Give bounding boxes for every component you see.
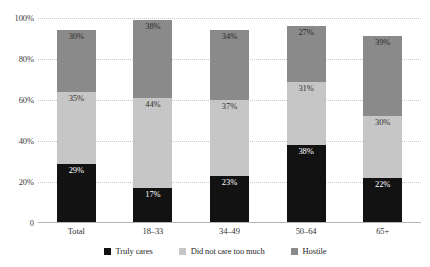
y-axis-tick-label: 60% xyxy=(0,95,34,105)
stacked-bar[interactable]: 27%31%38% xyxy=(287,18,326,223)
bar-segment-label: 34% xyxy=(210,32,249,41)
x-axis-tick-label: 34–49 xyxy=(191,226,268,236)
bar-segment[interactable]: 44% xyxy=(133,98,172,188)
x-axis-tick-labels: Total18–3334–4950–6465+ xyxy=(38,226,421,236)
bar-slot: 38%44%17% xyxy=(115,18,192,223)
x-axis-tick-label: Total xyxy=(38,226,115,236)
bar-slot: 39%30%22% xyxy=(344,18,421,223)
bar-segment-label: 31% xyxy=(287,84,326,93)
bar-segment[interactable]: 17% xyxy=(133,188,172,223)
stacked-bar[interactable]: 30%35%29% xyxy=(57,18,96,223)
bar-segment-label: 35% xyxy=(57,94,96,103)
bar-segment-label: 29% xyxy=(57,166,96,175)
bar-slot: 27%31%38% xyxy=(268,18,345,223)
y-axis-tick-label: 20% xyxy=(0,177,34,187)
legend-swatch-icon xyxy=(291,248,298,255)
bar-segment[interactable]: 22% xyxy=(363,178,402,223)
bar-segment[interactable]: 27% xyxy=(287,26,326,81)
bar-group: 30%35%29%38%44%17%34%37%23%27%31%38%39%3… xyxy=(38,18,421,223)
legend-item[interactable]: Hostile xyxy=(291,246,327,256)
bar-slot: 34%37%23% xyxy=(191,18,268,223)
bar-segment-label: 30% xyxy=(57,32,96,41)
y-axis-tick-label: 100% xyxy=(0,13,34,23)
bar-segment-label: 44% xyxy=(133,100,172,109)
legend-label: Hostile xyxy=(303,246,327,256)
bar-segment-label: 38% xyxy=(287,147,326,156)
bar-segment[interactable]: 38% xyxy=(133,20,172,98)
bar-segment[interactable]: 30% xyxy=(57,30,96,92)
legend-swatch-icon xyxy=(179,248,186,255)
legend-item[interactable]: Truly cares xyxy=(104,246,153,256)
legend-swatch-icon xyxy=(104,248,111,255)
y-axis-tick-label: 80% xyxy=(0,54,34,64)
bar-segment[interactable]: 31% xyxy=(287,82,326,146)
legend-label: Truly cares xyxy=(116,246,153,256)
bar-segment-label: 30% xyxy=(363,118,402,127)
bar-slot: 30%35%29% xyxy=(38,18,115,223)
x-axis-tick-label: 18–33 xyxy=(115,226,192,236)
stacked-bar[interactable]: 38%44%17% xyxy=(133,18,172,223)
legend-label: Did not care too much xyxy=(191,246,265,256)
bar-segment[interactable]: 39% xyxy=(363,36,402,116)
x-axis-tick-label: 50–64 xyxy=(268,226,345,236)
x-axis-line xyxy=(38,222,421,223)
y-axis-tick-label: 0 xyxy=(0,218,34,228)
bar-segment-label: 17% xyxy=(133,190,172,199)
stacked-bar-chart: 020%40%60%80%100% 30%35%29%38%44%17%34%3… xyxy=(0,0,430,267)
bar-segment-label: 39% xyxy=(363,38,402,47)
legend-item[interactable]: Did not care too much xyxy=(179,246,265,256)
bar-segment[interactable]: 23% xyxy=(210,176,249,223)
bar-segment[interactable]: 37% xyxy=(210,100,249,176)
bar-segment-label: 27% xyxy=(287,28,326,37)
chart-legend: Truly caresDid not care too muchHostile xyxy=(0,246,430,256)
bar-segment-label: 22% xyxy=(363,180,402,189)
bar-segment[interactable]: 35% xyxy=(57,92,96,164)
bar-segment[interactable]: 29% xyxy=(57,164,96,223)
stacked-bar[interactable]: 34%37%23% xyxy=(210,18,249,223)
x-axis-tick-label: 65+ xyxy=(344,226,421,236)
y-axis-tick-label: 40% xyxy=(0,136,34,146)
bar-segment-label: 37% xyxy=(210,102,249,111)
bar-segment[interactable]: 38% xyxy=(287,145,326,223)
bar-segment-label: 38% xyxy=(133,22,172,31)
plot-area: 30%35%29%38%44%17%34%37%23%27%31%38%39%3… xyxy=(38,18,421,223)
stacked-bar[interactable]: 39%30%22% xyxy=(363,18,402,223)
bar-segment[interactable]: 30% xyxy=(363,116,402,178)
bar-segment-label: 23% xyxy=(210,178,249,187)
bar-segment[interactable]: 34% xyxy=(210,30,249,100)
